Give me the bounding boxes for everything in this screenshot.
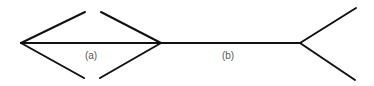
- figure-b-arrow-arm: [300, 8, 356, 43]
- figure-b-arrow-arm: [300, 43, 355, 80]
- label-b: (b): [222, 50, 234, 61]
- diagram-canvas: [0, 0, 374, 86]
- figure-a-arrow-arm: [21, 12, 85, 43]
- figure-a-arrow-arm: [21, 43, 84, 78]
- figure-a-arrow-arm: [101, 12, 161, 43]
- label-a: (a): [85, 50, 97, 61]
- figure-a-arrow-arm: [100, 43, 161, 78]
- muller-lyer-diagram: (a) (b): [0, 0, 374, 86]
